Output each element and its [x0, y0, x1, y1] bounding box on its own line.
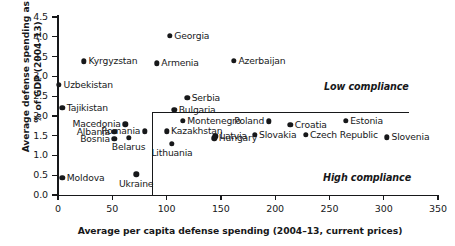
x-axis-line [57, 195, 439, 197]
data-point-label: Poland [234, 116, 264, 126]
data-point-label: Bosnia [80, 134, 110, 144]
data-point [81, 59, 86, 64]
y-axis-tick-label: 1.0 [22, 149, 48, 160]
data-point-label: Moldova [67, 173, 105, 183]
data-point [126, 135, 131, 140]
x-axis-tick-label: 300 [364, 203, 404, 214]
data-point [164, 129, 169, 134]
x-axis-tick [166, 195, 167, 200]
data-point-label: Uzbekistan [64, 80, 113, 90]
data-point-label: Tajikistan [67, 103, 108, 113]
data-point-label: Czech Republic [310, 130, 378, 140]
x-axis-tick-label: 0 [38, 203, 78, 214]
data-point [231, 58, 236, 63]
data-point [266, 119, 271, 124]
y-axis-tick [52, 76, 57, 77]
x-axis-tick [112, 195, 113, 200]
data-point [169, 141, 174, 146]
data-point [343, 118, 348, 123]
x-axis-tick-label: 350 [418, 203, 455, 214]
y-axis-tick [52, 56, 57, 57]
y-axis-tick-label: 0.5 [22, 169, 48, 180]
data-point [142, 129, 147, 134]
data-point-label: Estonia [350, 116, 383, 126]
high-compliance-label: High compliance [323, 172, 411, 183]
x-axis-tick [57, 195, 58, 200]
x-axis-title: Average per capita defense spending (200… [40, 225, 440, 236]
data-point-label: Ukraine [119, 179, 153, 189]
y-axis-tick [52, 194, 57, 195]
scatter-chart: Average defense spending as a % of GDP (… [0, 0, 455, 246]
data-point-label: Serbia [192, 93, 220, 103]
compliance-divider-horizontal [152, 112, 409, 114]
data-point [180, 118, 185, 123]
y-axis-tick-label: 4.0 [22, 31, 48, 42]
data-point [56, 82, 61, 87]
y-axis-tick-label: 3.5 [22, 51, 48, 62]
data-point-label: Slovenia [391, 132, 429, 142]
y-axis-tick [52, 155, 57, 156]
y-axis-tick [52, 16, 57, 17]
data-point-label: Lithuania [151, 148, 192, 158]
data-point [60, 105, 65, 110]
x-axis-tick-label: 150 [201, 203, 241, 214]
y-axis-tick-label: 4.5 [22, 11, 48, 22]
y-axis-tick [52, 36, 57, 37]
data-point-label: Kyrgyzstan [89, 56, 138, 66]
data-point [154, 61, 159, 66]
data-point [384, 135, 389, 140]
y-axis-tick-label: 2.5 [22, 90, 48, 101]
data-point-label: Hungary [219, 133, 257, 143]
data-point-label: Georgia [174, 31, 209, 41]
y-axis-tick [52, 175, 57, 176]
data-point [288, 122, 293, 127]
x-axis-tick [437, 195, 438, 200]
x-axis-tick [220, 195, 221, 200]
y-axis-tick [52, 115, 57, 116]
x-axis-tick [329, 195, 330, 200]
data-point-label: Armenia [161, 58, 198, 68]
x-axis-tick-label: 250 [309, 203, 349, 214]
x-axis-tick [383, 195, 384, 200]
data-point-label: Montenegro [187, 116, 241, 126]
y-axis-tick-label: 1.5 [22, 130, 48, 141]
data-point [60, 175, 65, 180]
data-point-label: Slovakia [259, 130, 296, 140]
compliance-divider-vertical [152, 112, 154, 195]
data-point-label: Belarus [112, 142, 145, 152]
y-axis-tick-label: 0.0 [22, 189, 48, 200]
x-axis-tick-label: 200 [255, 203, 295, 214]
data-point [212, 136, 217, 141]
data-point [303, 132, 308, 137]
y-axis-line [57, 15, 59, 196]
data-point [184, 95, 189, 100]
data-point [133, 172, 138, 177]
y-axis-tick [52, 135, 57, 136]
y-axis-tick-label: 2.0 [22, 110, 48, 121]
data-point-label: Azerbaijan [238, 56, 285, 66]
data-point [167, 33, 172, 38]
y-axis-tick-label: 3.0 [22, 70, 48, 81]
x-axis-tick-label: 100 [147, 203, 187, 214]
x-axis-tick-label: 50 [92, 203, 132, 214]
x-axis-tick [275, 195, 276, 200]
y-axis-tick [52, 96, 57, 97]
low-compliance-label: Low compliance [324, 81, 409, 92]
